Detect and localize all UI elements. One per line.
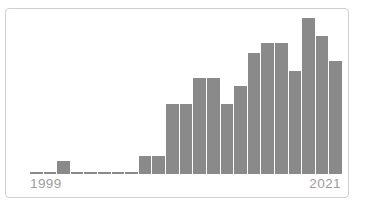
bar-2021 [329, 61, 342, 174]
bar-2008 [152, 156, 165, 174]
bar-2015 [248, 53, 261, 174]
bar-2018 [289, 71, 302, 174]
bar-2019 [302, 18, 315, 174]
bar-2004 [98, 172, 111, 175]
bar-2017 [275, 43, 288, 174]
bar-2009 [166, 104, 179, 175]
bar-2016 [261, 43, 274, 174]
bar-2000 [44, 172, 57, 175]
bar-2003 [84, 172, 97, 175]
x-axis-tick-start: 1999 [30, 177, 62, 191]
bar-2007 [139, 156, 152, 174]
x-axis-tick-end: 2021 [309, 177, 341, 191]
chart-frame: 1999 2021 [5, 8, 349, 198]
bar-2011 [193, 78, 206, 174]
chart-canvas: 1999 2021 [0, 0, 365, 209]
bar-2001 [57, 161, 70, 174]
bar-2002 [71, 172, 84, 175]
bar-2013 [221, 104, 234, 175]
bar-2005 [112, 172, 125, 175]
bar-2012 [207, 78, 220, 174]
bar-series [30, 18, 342, 174]
bar-2014 [234, 86, 247, 174]
bar-2010 [180, 104, 193, 175]
bar-2006 [125, 172, 138, 175]
bar-1999 [30, 172, 43, 175]
bar-2020 [316, 36, 329, 174]
